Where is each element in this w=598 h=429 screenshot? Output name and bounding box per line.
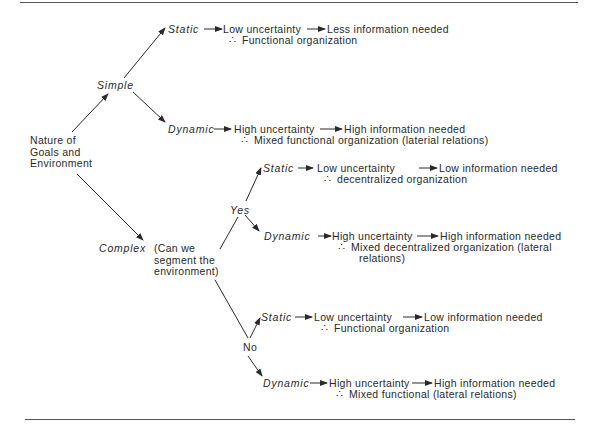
no-static-conclusion: ∴Functional organization (321, 322, 449, 334)
simple-static-node: Static (168, 23, 199, 35)
therefore-symbol: ∴ (241, 134, 248, 146)
yes-static-conclusion: ∴decentralized organization (324, 173, 467, 185)
yes-dynamic-conclusion-line-2: relations) (359, 252, 405, 264)
connector-arrows (0, 0, 598, 429)
therefore-symbol: ∴ (324, 173, 331, 185)
simple-dynamic-node: Dynamic (168, 123, 214, 135)
conclusion-text: Mixed functional organization (laterial … (254, 134, 488, 146)
no-static-node: Static (261, 311, 292, 323)
yes-dynamic-node: Dynamic (264, 230, 310, 242)
conclusion-text: Functional organization (334, 322, 449, 334)
conclusion-text: Functional organization (242, 34, 357, 46)
complex-node: Complex (99, 242, 146, 254)
no-node: No (243, 341, 257, 353)
complex-question-line-3: environment) (154, 265, 219, 277)
complex-question-line-1: (Can we (154, 242, 195, 254)
therefore-symbol: ∴ (338, 241, 345, 253)
root-node-line-3: Environment (30, 157, 92, 169)
no-dynamic-node: Dynamic (263, 377, 309, 389)
therefore-symbol: ∴ (229, 34, 236, 46)
simple-dynamic-conclusion: ∴Mixed functional organization (laterial… (241, 134, 488, 146)
root-node-line-1: Nature of (30, 134, 76, 146)
no-dynamic-conclusion: ∴Mixed functional (lateral relations) (336, 388, 517, 400)
yes-static-node: Static (263, 162, 294, 174)
yes-node: Yes (230, 204, 250, 216)
simple-node: Simple (97, 79, 134, 91)
simple-static-conclusion: ∴Functional organization (229, 34, 357, 46)
conclusion-text: Mixed functional (lateral relations) (349, 388, 517, 400)
therefore-symbol: ∴ (336, 388, 343, 400)
conclusion-text: decentralized organization (337, 173, 467, 185)
therefore-symbol: ∴ (321, 322, 328, 334)
